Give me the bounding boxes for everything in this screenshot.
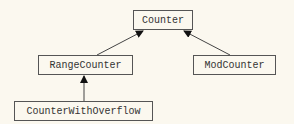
node-range-counter: RangeCounter — [38, 55, 133, 75]
node-counter: Counter — [133, 10, 193, 30]
edge-mod-to-counter — [184, 31, 230, 55]
edge-range-to-counter — [97, 31, 143, 55]
node-mod-counter: ModCounter — [193, 55, 276, 75]
node-counter-with-overflow: CounterWithOverflow — [14, 101, 153, 121]
